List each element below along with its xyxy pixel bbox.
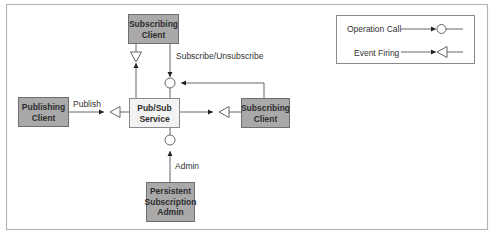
svg-text:Persistent: Persistent — [150, 186, 191, 196]
svg-text:Client: Client — [142, 30, 166, 40]
node-subscribing-client-right: Subscribing Client — [241, 99, 290, 128]
legend: Operation Call Event Firing — [337, 16, 475, 64]
node-pubsub-service: Pub/Sub Service — [130, 99, 180, 128]
node-persistent-subscription-admin: Persistent Subscription Admin — [145, 183, 197, 222]
svg-text:Subscribing: Subscribing — [241, 103, 290, 113]
pubsub-diagram: Operation Call Event Firing Subscribe/Un… — [0, 0, 493, 236]
svg-text:Client: Client — [32, 113, 56, 123]
svg-text:Admin: Admin — [157, 207, 183, 217]
svg-text:Subscribing: Subscribing — [129, 19, 178, 29]
node-publishing-client: Publishing Client — [19, 98, 69, 127]
legend-event-firing-label: Event Firing — [354, 48, 400, 58]
svg-text:Publishing: Publishing — [22, 102, 65, 112]
operation-circle-icon — [165, 135, 175, 145]
svg-text:Pub/Sub: Pub/Sub — [137, 103, 171, 113]
subscribe-label: Subscribe/Unsubscribe — [176, 51, 264, 61]
admin-label: Admin — [175, 161, 199, 171]
operation-circle-icon — [165, 78, 175, 88]
svg-text:Service: Service — [139, 114, 170, 124]
legend-operation-call-label: Operation Call — [347, 24, 401, 34]
operation-call-circle-icon — [437, 25, 446, 34]
svg-text:Client: Client — [254, 114, 278, 124]
svg-text:Subscription: Subscription — [145, 197, 197, 207]
node-subscribing-client-top: Subscribing Client — [129, 15, 179, 44]
publish-label: Publish — [73, 99, 101, 109]
